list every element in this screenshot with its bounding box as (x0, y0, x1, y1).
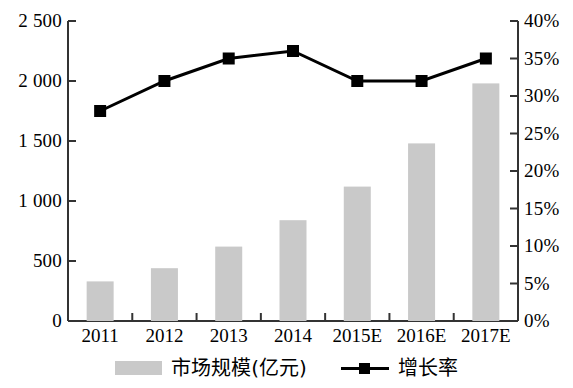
bar-2011 (87, 281, 114, 321)
y-axis-left-tick-label: 1 000 (0, 191, 62, 210)
chart-legend: 市场规模(亿元) 增长率 (0, 352, 573, 384)
line-marker-2015E (351, 75, 363, 87)
bar-2012 (151, 268, 178, 321)
line-marker-2013 (223, 53, 235, 65)
bar-2015E (344, 187, 371, 321)
legend-square-marker (359, 363, 370, 374)
bar-2016E (408, 143, 435, 321)
y-axis-right-tick-label: 35% (524, 49, 573, 68)
line-series (94, 45, 492, 117)
line-marker-2011 (94, 105, 106, 117)
y-axis-right-tick-label: 25% (524, 124, 573, 143)
bar-2014 (280, 220, 307, 321)
bar-swatch-icon (115, 361, 162, 375)
y-axis-left-tick-label: 2 500 (0, 11, 62, 30)
y-axis-right-tick-label: 10% (524, 236, 573, 255)
y-axis-left-tick-label: 500 (0, 251, 62, 270)
line-marker-2016E (416, 75, 428, 87)
line-marker-2014 (287, 45, 299, 57)
y-axis-left-tick-label: 0 (0, 311, 62, 330)
growth-rate-line (100, 51, 486, 111)
line-marker-2017E (480, 53, 492, 65)
y-axis-right-tick-label: 15% (524, 199, 573, 218)
line-square-marker-icon (341, 361, 389, 375)
x-axis-tick-label: 2017E (446, 326, 526, 345)
y-axis-right-ticks (510, 21, 518, 321)
y-axis-right-tick-label: 30% (524, 86, 573, 105)
chart-container: 05001 0001 5002 0002 500 0%5%10%15%20%25… (0, 0, 573, 388)
y-axis-right-tick-label: 5% (524, 274, 573, 293)
legend-label-growth-rate: 增长率 (398, 358, 458, 378)
legend-item-growth-rate: 增长率 (341, 358, 458, 378)
legend-item-market-size: 市场规模(亿元) (115, 358, 307, 378)
y-axis-left-tick-label: 1 500 (0, 131, 62, 150)
bar-series (87, 83, 500, 321)
y-axis-left-ticks (68, 21, 76, 321)
line-marker-2012 (158, 75, 170, 87)
y-axis-right-tick-label: 0% (524, 311, 573, 330)
bar-2017E (472, 83, 499, 321)
y-axis-right-tick-label: 20% (524, 161, 573, 180)
y-axis-left-tick-label: 2 000 (0, 71, 62, 90)
y-axis-right-tick-label: 40% (524, 11, 573, 30)
bar-2013 (215, 247, 242, 321)
legend-label-market-size: 市场规模(亿元) (171, 358, 307, 378)
